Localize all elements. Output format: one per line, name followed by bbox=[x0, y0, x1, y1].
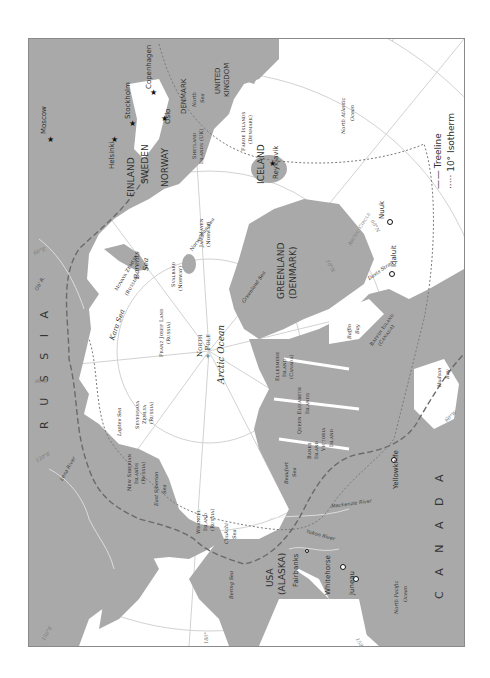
city-yellowknife: Yellowknife bbox=[393, 450, 400, 489]
label-russia: R U S S I A bbox=[39, 305, 50, 429]
label-baffin-bay-2: Bay bbox=[355, 325, 360, 334]
label-north-atlantic-1: North Atlantic bbox=[341, 98, 346, 134]
label-north-pacific-2: Ocean bbox=[403, 586, 408, 602]
label-wrangel-1: Wrangel bbox=[196, 509, 201, 534]
label-jan-mayen-1: Jan Mayen bbox=[199, 218, 204, 247]
label-new-siberian-2: Islands bbox=[134, 463, 139, 484]
label-hudson-bay-2: Bay bbox=[445, 370, 450, 379]
legend-isotherm-label: 10° Isotherm bbox=[446, 113, 456, 172]
label-east-siberian-1: East Siberian bbox=[154, 472, 159, 506]
label-north-pacific-1: North Pacific bbox=[394, 581, 399, 614]
city-whitehorse: Whitehorse bbox=[325, 555, 332, 595]
label-north-sea-2: Sea bbox=[200, 94, 205, 103]
label-bering-sea: Bering Sea bbox=[229, 571, 234, 599]
label-jan-mayen-2: (Norway) bbox=[206, 222, 211, 247]
label-laptev-sea: Laptev Sea bbox=[117, 408, 122, 436]
label-beaufort-1: Beaufort bbox=[284, 462, 289, 484]
city-helsinki: Helsinki bbox=[109, 141, 116, 169]
label-qe-islands-1: Queen Elizabeth bbox=[297, 387, 302, 434]
label-uk-1: UNITED bbox=[215, 67, 222, 94]
label-baffin-bay-1: Baffin bbox=[347, 324, 352, 339]
label-svalbard-2: (Norway) bbox=[178, 266, 183, 291]
capital-star-icon: ★ bbox=[150, 89, 157, 97]
label-franz-josef-1: Franz Josef Land bbox=[159, 308, 164, 357]
city-nuuk: Nuuk bbox=[379, 201, 386, 219]
label-faroe-1: Faroe Islands bbox=[241, 112, 246, 151]
label-ellesmere-3: (Canada) bbox=[289, 354, 294, 379]
capital-star-icon: ★ bbox=[47, 136, 54, 144]
label-denmark: DENMARK bbox=[181, 79, 188, 114]
label-usa-sub: (ALASKA) bbox=[278, 553, 287, 595]
label-north-atlantic-2: Ocean bbox=[350, 105, 355, 121]
label-victoria-1: Victoria bbox=[321, 428, 326, 451]
city-copenhagen: Copenhagen bbox=[146, 45, 153, 89]
label-banks-1: Banks bbox=[307, 442, 312, 459]
label-north-pole-1: North bbox=[197, 334, 204, 357]
label-uk-2: KINGDOM bbox=[224, 63, 231, 97]
label-north-sea-1: North bbox=[192, 92, 197, 107]
label-svalbard-1: Svalbard bbox=[171, 262, 176, 287]
label-greenland-sub: (DENMARK) bbox=[289, 247, 298, 299]
label-hudson-bay-1: Hudson bbox=[437, 367, 442, 387]
city-stockholm: Stockholm bbox=[125, 82, 132, 119]
label-ellesmere-1: Ellesmere bbox=[275, 352, 280, 381]
label-greenland: GREENLAND bbox=[277, 243, 286, 299]
label-wrangel-2: Island bbox=[203, 513, 208, 531]
label-shetland-2: Islands (UK) bbox=[199, 128, 204, 164]
label-barents-2: Sea bbox=[143, 258, 150, 271]
label-iceland: ICELAND bbox=[257, 144, 266, 184]
label-chukchi-2: Sea bbox=[232, 530, 237, 539]
city-fairbanks: Fairbanks bbox=[293, 554, 300, 587]
arctic-map: — — Treeline ····· 10° Isotherm 500 mile… bbox=[28, 38, 465, 647]
label-sweden: SWEDEN bbox=[141, 144, 150, 184]
capital-star-icon: ★ bbox=[129, 120, 136, 128]
label-usa: USA bbox=[266, 568, 275, 587]
label-severnaya-2: Zemlya bbox=[142, 405, 147, 424]
city-dot-icon bbox=[305, 549, 309, 553]
label-banks-2: Island bbox=[314, 441, 319, 459]
label-chukchi-1: Chukchi bbox=[224, 523, 229, 544]
label-shetland-1: Shetland bbox=[192, 133, 197, 159]
legend-treeline-label: Treeline bbox=[433, 133, 443, 168]
label-victoria-2: Island bbox=[329, 429, 334, 447]
label-canada: C A N A D A bbox=[434, 469, 445, 599]
legend-isotherm: ····· 10° Isotherm bbox=[447, 113, 456, 189]
label-90e: 90°E bbox=[35, 379, 48, 384]
label-east-siberian-2: Sea bbox=[162, 485, 167, 494]
city-moscow: Moscow bbox=[41, 106, 48, 134]
label-arctic-ocean: Arctic Ocean bbox=[217, 325, 226, 384]
label-severnaya-1: Severnaya bbox=[135, 401, 140, 429]
label-faroe-2: (Denmark) bbox=[248, 115, 253, 144]
city-dot-icon bbox=[387, 219, 393, 225]
label-180: 180° bbox=[204, 632, 209, 644]
label-norway: NORWAY bbox=[161, 148, 170, 187]
city-oslo: Oslo bbox=[165, 109, 172, 124]
label-new-siberian-3: (Russia) bbox=[141, 461, 146, 484]
label-finland: FINLAND bbox=[127, 157, 136, 197]
label-severnaya-3: (Russia) bbox=[149, 401, 154, 424]
city-juneau: Juneau bbox=[349, 571, 356, 595]
label-franz-josef-2: (Russia) bbox=[166, 321, 171, 344]
legend-treeline: — — Treeline bbox=[434, 133, 443, 189]
city-dot-icon bbox=[389, 271, 395, 277]
label-ellesmere-2: Island bbox=[282, 359, 287, 377]
label-beaufort-2: Sea bbox=[292, 468, 297, 477]
city-dot-icon bbox=[340, 564, 346, 570]
label-qe-islands-2: Islands bbox=[305, 393, 310, 414]
label-new-siberian-1: New Siberian bbox=[127, 454, 132, 491]
label-north-pole-2: + Pole bbox=[205, 334, 212, 359]
city-reykjavik: Reykjavik bbox=[273, 146, 280, 179]
label-wrangel-3: (Russia) bbox=[210, 508, 215, 531]
